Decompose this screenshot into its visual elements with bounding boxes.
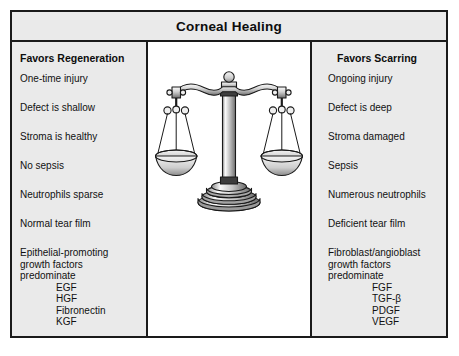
right-column-heading: Favors Scarring (320, 51, 438, 73)
list-item: Fibronectin (56, 305, 138, 317)
list-item: Ongoing injury (320, 73, 438, 102)
growth-factor-lead-line: Fibroblast/angioblast (328, 247, 438, 259)
scale-base (198, 182, 260, 212)
growth-factor-lead-line: predominate (20, 270, 138, 282)
favors-scarring-column: Favors Scarring Ongoing injury Defect is… (310, 42, 446, 336)
balance-scale-icon (154, 50, 304, 230)
list-item: VEGF (372, 316, 438, 328)
left-column-heading: Favors Regeneration (20, 51, 138, 73)
list-item: FGF (372, 282, 438, 294)
left-entry-list: One-time injury Defect is shallow Stroma… (20, 73, 138, 247)
right-growth-factor-list: FGF TGF-β PDGF VEGF (328, 282, 438, 328)
list-item: Deficient tear film (320, 218, 438, 247)
figure-title-bar: Corneal Healing (12, 12, 446, 42)
left-growth-factor-list: EGF HGF Fibronectin KGF (20, 282, 138, 328)
left-growth-factor-block: Epithelial-promoting growth factors pred… (20, 247, 138, 328)
list-item: TGF-β (372, 293, 438, 305)
list-item: PDGF (372, 305, 438, 317)
scale-left-hanger (157, 87, 196, 160)
list-item: Sepsis (320, 160, 438, 189)
list-item: One-time injury (20, 73, 138, 102)
list-item: Defect is deep (320, 102, 438, 131)
growth-factor-lead-line: growth factors (328, 259, 438, 271)
growth-factor-lead-line: predominate (328, 270, 438, 282)
balance-scale-panel (148, 42, 310, 336)
growth-factor-lead-line: growth factors (20, 259, 138, 271)
right-entry-list: Ongoing injury Defect is deep Stroma dam… (320, 73, 438, 247)
corneal-healing-figure: Corneal Healing Favors Regeneration One-… (10, 10, 448, 338)
figure-columns: Favors Regeneration One-time injury Defe… (12, 42, 446, 336)
right-growth-factor-block: Fibroblast/angioblast growth factors pre… (320, 247, 438, 328)
figure-title: Corneal Healing (176, 19, 282, 34)
list-item: No sepsis (20, 160, 138, 189)
list-item: HGF (56, 293, 138, 305)
scale-right-pan (261, 150, 302, 176)
list-item: Numerous neutrophils (320, 189, 438, 218)
list-item: Stroma is healthy (20, 131, 138, 160)
list-item: Defect is shallow (20, 102, 138, 131)
growth-factor-lead-line: Epithelial-promoting (20, 247, 138, 259)
scale-right-hanger (263, 87, 302, 160)
list-item: Stroma damaged (320, 131, 438, 160)
scale-left-pan (156, 150, 197, 176)
list-item: EGF (56, 282, 138, 294)
favors-regeneration-column: Favors Regeneration One-time injury Defe… (12, 42, 148, 336)
list-item: Normal tear film (20, 218, 138, 247)
list-item: Neutrophils sparse (20, 189, 138, 218)
list-item: KGF (56, 316, 138, 328)
